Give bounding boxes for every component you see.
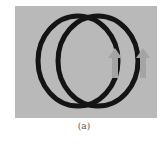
right-ring (58, 16, 138, 106)
overlapping-rings-diagram (15, 6, 157, 118)
figure-caption: (a) (0, 121, 168, 131)
left-ring (38, 16, 118, 106)
